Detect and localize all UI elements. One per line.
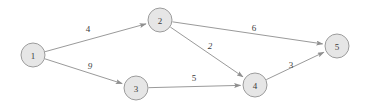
node-label-4: 4 <box>253 81 258 91</box>
edge-weight-1-2: 4 <box>86 24 91 34</box>
node-2[interactable]: 2 <box>148 8 172 32</box>
node-1[interactable]: 1 <box>21 43 45 67</box>
node-label-2: 2 <box>158 16 163 26</box>
node-label-5: 5 <box>335 42 340 52</box>
edge-4-to-5 <box>266 52 324 79</box>
edge-weight-4-5: 3 <box>289 60 294 70</box>
edge-1-to-3 <box>45 59 122 84</box>
edge-weight-3-4: 5 <box>192 73 197 83</box>
node-5[interactable]: 5 <box>325 34 349 58</box>
edge-2-to-4 <box>170 27 243 77</box>
node-label-3: 3 <box>134 84 139 94</box>
edge-2-to-5 <box>172 22 322 44</box>
node-3[interactable]: 3 <box>124 76 148 100</box>
nodes-layer: 12345 <box>21 8 349 100</box>
edge-1-to-2 <box>45 24 146 52</box>
edge-weight-2-4: 2 <box>208 41 213 51</box>
directed-weighted-graph: 12345 496253 <box>0 0 370 106</box>
edge-weight-2-5: 6 <box>252 23 257 33</box>
node-4[interactable]: 4 <box>243 73 267 97</box>
graph-diagram-canvas: 12345 496253 <box>0 0 370 106</box>
node-label-1: 1 <box>31 51 36 61</box>
edge-weight-1-3: 9 <box>88 61 93 71</box>
edge-3-to-4 <box>148 85 240 87</box>
